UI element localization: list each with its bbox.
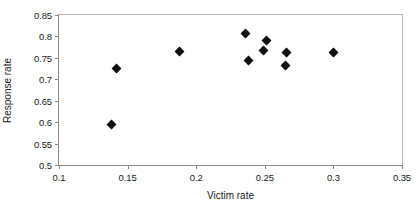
plot-area: 0.50.550.60.650.70.750.80.85 0.10.150.20… [58, 14, 403, 166]
y-axis-tick-label: 0.85 [34, 10, 52, 21]
y-axis-title: Response rate [0, 14, 16, 166]
data-point [258, 46, 268, 56]
x-axis-tick-label: 0.1 [53, 172, 66, 183]
data-point [261, 36, 271, 46]
data-point [241, 29, 251, 39]
y-axis-tick-label: 0.65 [34, 95, 52, 106]
x-axis-tick [196, 165, 197, 169]
x-axis-tick [333, 165, 334, 169]
data-point [282, 47, 292, 57]
y-axis-tick-label: 0.8 [39, 31, 52, 42]
x-axis-tick-label: 0.2 [190, 172, 203, 183]
x-axis-title-text: Victim rate [207, 190, 254, 201]
data-point [175, 47, 185, 57]
data-points-layer [59, 15, 402, 165]
scatter-chart: Response rate 0.50.550.60.650.70.750.80.… [0, 0, 420, 211]
y-axis-tick-label: 0.6 [39, 117, 52, 128]
y-axis-tick-label: 0.75 [34, 52, 52, 63]
x-axis-tick-label: 0.35 [393, 172, 411, 183]
x-axis-title: Victim rate [58, 190, 403, 201]
data-point [280, 60, 290, 70]
y-axis-tick-label: 0.5 [39, 160, 52, 171]
x-axis-tick [59, 165, 60, 169]
x-axis-tick-label: 0.15 [119, 172, 137, 183]
y-axis-tick-label: 0.55 [34, 138, 52, 149]
y-axis-title-text: Response rate [3, 57, 14, 122]
x-axis-tick [128, 165, 129, 169]
x-axis-tick [402, 165, 403, 169]
data-point [106, 120, 116, 130]
x-axis-tick [265, 165, 266, 169]
x-axis-tick-label: 0.25 [256, 172, 274, 183]
data-point [112, 63, 122, 73]
y-axis-tick-label: 0.7 [39, 74, 52, 85]
x-axis-tick-label: 0.3 [327, 172, 340, 183]
data-point [243, 55, 253, 65]
data-point [328, 47, 338, 57]
